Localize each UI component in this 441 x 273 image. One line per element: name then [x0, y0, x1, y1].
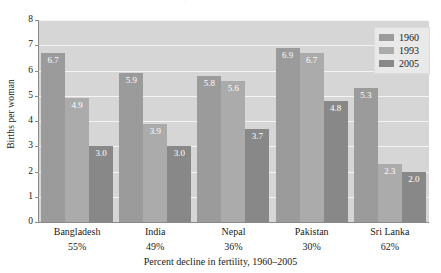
- y-axis-tick-label: 8: [3, 15, 33, 25]
- x-axis-category-name: Sri Lanka: [351, 224, 429, 239]
- bar[interactable]: 5.6: [221, 81, 245, 222]
- bar[interactable]: 2.3: [378, 164, 402, 222]
- bar[interactable]: 6.9: [276, 48, 300, 222]
- y-axis-tick-label: 5: [3, 91, 33, 101]
- bar[interactable]: 3.9: [143, 124, 167, 222]
- bar-value-label: 2.3: [378, 166, 402, 176]
- x-axis-category-percent: 30%: [273, 239, 351, 254]
- x-axis-category-name: Pakistan: [273, 224, 351, 239]
- bar-value-label: 2.0: [402, 174, 426, 184]
- y-axis-tick-mark: [35, 222, 39, 223]
- bar[interactable]: 3.0: [167, 146, 191, 222]
- x-axis-category-labels: Bangladesh55%India49%Nepal36%Pakistan30%…: [38, 224, 429, 258]
- x-axis-category: Pakistan30%: [273, 224, 351, 254]
- y-axis-tick-mark: [35, 197, 39, 198]
- bar-value-label: 3.0: [89, 148, 113, 158]
- bar[interactable]: 6.7: [300, 53, 324, 222]
- x-axis-category: Nepal36%: [194, 224, 272, 254]
- bar-value-label: 6.7: [300, 55, 324, 65]
- x-axis-category-percent: 55%: [38, 239, 116, 254]
- bar-group: 5.93.93.0: [116, 20, 194, 222]
- y-axis-tick-mark: [35, 172, 39, 173]
- y-axis-tick-label: 6: [3, 66, 33, 76]
- bar[interactable]: 5.3: [354, 88, 378, 222]
- y-axis-tick-label: 1: [3, 192, 33, 202]
- legend-item-label: 1993: [399, 44, 419, 57]
- bar[interactable]: 3.0: [89, 146, 113, 222]
- bar[interactable]: 4.8: [324, 101, 348, 222]
- legend-swatch-icon: [379, 34, 394, 41]
- x-axis-category-name: India: [116, 224, 194, 239]
- y-axis-tick-label: 3: [3, 142, 33, 152]
- bar-value-label: 4.8: [324, 103, 348, 113]
- bar-value-label: 4.9: [65, 100, 89, 110]
- bar-value-label: 3.7: [245, 131, 269, 141]
- y-axis-tick-label: 4: [3, 116, 33, 126]
- legend-swatch-icon: [379, 60, 394, 67]
- bar-value-label: 6.9: [276, 50, 300, 60]
- y-axis-tick-mark: [35, 71, 39, 72]
- x-axis-category: India49%: [116, 224, 194, 254]
- x-axis-line: [38, 222, 429, 223]
- y-axis-tick-mark: [35, 146, 39, 147]
- legend-item-label: 1960: [399, 31, 419, 44]
- x-axis-category-percent: 36%: [194, 239, 272, 254]
- legend-swatch-icon: [379, 47, 394, 54]
- y-axis-tick-label: 2: [3, 167, 33, 177]
- y-axis-tick-labels: 012345678: [0, 0, 33, 273]
- x-axis-category: Sri Lanka62%: [351, 224, 429, 254]
- cropped-chart-title: Fertility Decline in South Asia: [0, 0, 441, 2]
- bar-value-label: 6.7: [41, 55, 65, 65]
- bar-group: 6.96.74.8: [273, 20, 351, 222]
- x-axis-category: Bangladesh55%: [38, 224, 116, 254]
- y-axis-tick-label: 7: [3, 41, 33, 51]
- bar[interactable]: 4.9: [65, 98, 89, 222]
- bar[interactable]: 2.0: [402, 172, 426, 223]
- legend-item[interactable]: 1960: [379, 31, 426, 44]
- bar-value-label: 5.9: [119, 75, 143, 85]
- bar-value-label: 5.8: [197, 78, 221, 88]
- x-axis-category-name: Nepal: [194, 224, 272, 239]
- x-axis-category-name: Bangladesh: [38, 224, 116, 239]
- bar[interactable]: 5.8: [197, 76, 221, 222]
- bar[interactable]: 3.7: [245, 129, 269, 222]
- x-axis-title: Percent decline in fertility, 1960–2005: [0, 256, 441, 267]
- bar-groups: 6.74.93.05.93.93.05.85.63.76.96.74.85.32…: [38, 20, 429, 222]
- bar[interactable]: 6.7: [41, 53, 65, 222]
- y-axis-tick-label: 0: [3, 217, 33, 227]
- legend-item-label: 2005: [399, 57, 419, 70]
- x-axis-category-percent: 49%: [116, 239, 194, 254]
- bar-value-label: 5.3: [354, 90, 378, 100]
- fertility-bar-chart-figure: Fertility Decline in South Asia Births p…: [0, 0, 441, 273]
- chart-legend: 196019932005: [374, 27, 430, 74]
- bar-value-label: 3.9: [143, 126, 167, 136]
- bar-group: 6.74.93.0: [38, 20, 116, 222]
- bar-value-label: 3.0: [167, 148, 191, 158]
- bar-group: 5.85.63.7: [194, 20, 272, 222]
- legend-item[interactable]: 1993: [379, 44, 426, 57]
- bar-value-label: 5.6: [221, 83, 245, 93]
- y-axis-tick-mark: [35, 20, 39, 21]
- legend-item[interactable]: 2005: [379, 57, 426, 70]
- bar[interactable]: 5.9: [119, 73, 143, 222]
- y-axis-tick-mark: [35, 96, 39, 97]
- y-axis-tick-mark: [35, 45, 39, 46]
- y-axis-tick-mark: [35, 121, 39, 122]
- x-axis-category-percent: 62%: [351, 239, 429, 254]
